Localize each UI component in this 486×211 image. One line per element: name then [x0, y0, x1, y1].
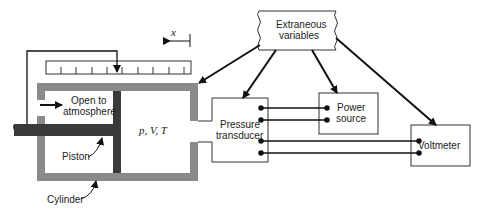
power-source: Power source: [319, 93, 378, 134]
cylinder-label: Cylinder: [47, 194, 84, 205]
state-label: p, V, T: [138, 124, 168, 136]
diagram-canvas: x: [0, 0, 486, 211]
voltmeter: Voltmeter: [411, 125, 470, 166]
voltmeter-label: Voltmeter: [418, 140, 461, 151]
open-to-label: Open to: [71, 95, 107, 106]
atmosphere-label: atmosphere: [63, 106, 116, 117]
scale-ruler: [46, 61, 191, 74]
power-label-2: source: [336, 113, 366, 124]
power-label-1: Power: [337, 102, 366, 113]
x-label: x: [170, 26, 176, 38]
pressure-port: [198, 121, 212, 142]
x-direction-indicator: x: [170, 26, 190, 47]
piston-label: Piston: [62, 151, 90, 162]
transducer-label-1: Pressure: [220, 119, 260, 130]
extraneous-label-1: Extraneous: [276, 19, 327, 30]
extraneous-label-2: variables: [279, 30, 319, 41]
extraneous-variables: Extraneous variables: [258, 11, 338, 50]
piston-leader: [88, 138, 102, 157]
transducer-label-2: transducer: [216, 130, 264, 141]
